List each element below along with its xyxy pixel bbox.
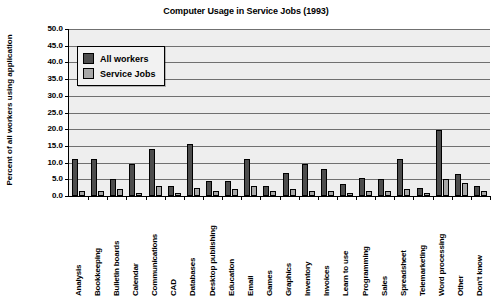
bar-all-workers: [455, 174, 461, 196]
bar-all-workers: [187, 144, 193, 196]
bar-group: [471, 29, 490, 196]
bar-group: [241, 29, 260, 196]
bar-all-workers: [359, 178, 365, 196]
y-tick-label: 35.0: [27, 74, 63, 83]
x-axis-label: Spreadsheet: [393, 200, 412, 298]
x-axis-label-text: Inventory: [303, 262, 312, 296]
bar-group: [260, 29, 279, 196]
bar-group: [280, 29, 299, 196]
bar-service-jobs: [117, 189, 123, 196]
bar-service-jobs: [290, 189, 296, 196]
y-axis-title: Percent of all workers using application: [2, 22, 16, 198]
x-axis-label: Telemarketing: [412, 200, 431, 298]
x-axis-label-text: Games: [265, 270, 274, 296]
legend-label: All workers: [100, 54, 149, 64]
y-tick-label: 20.0: [27, 124, 63, 133]
bar-all-workers: [129, 164, 135, 196]
bar-all-workers: [321, 169, 327, 196]
x-axis-label-text: Telemarketing: [418, 245, 427, 296]
x-axis-label-text: Spreadsheet: [399, 250, 408, 296]
bar-service-jobs: [366, 191, 372, 196]
bar-group: [452, 29, 471, 196]
bar-group: [222, 29, 241, 196]
y-tick-label: 15.0: [27, 141, 63, 150]
bar-service-jobs: [424, 193, 430, 196]
x-axis-label: Communications: [145, 200, 164, 298]
bar-all-workers: [206, 181, 212, 196]
x-axis-label: CAD: [164, 200, 183, 298]
x-axis-label: Sales: [374, 200, 393, 298]
x-axis-label-text: Invoices: [322, 266, 331, 296]
bar-service-jobs: [481, 191, 487, 196]
bar-group: [337, 29, 356, 196]
bar-service-jobs: [232, 189, 238, 196]
bar-service-jobs: [136, 193, 142, 196]
bar-all-workers: [225, 181, 231, 196]
bar-service-jobs: [270, 191, 276, 196]
bar-service-jobs: [443, 179, 449, 196]
x-axis-label: Databases: [183, 200, 202, 298]
x-axis-label-text: Bookkeeping: [93, 248, 102, 296]
chart-title: Computer Usage in Service Jobs (1993): [0, 6, 492, 16]
x-axis-label: Invoices: [317, 200, 336, 298]
x-axis-label: Word processing: [432, 200, 451, 298]
bar-group: [375, 29, 394, 196]
y-tick-mark: [65, 196, 69, 197]
x-axis-label: Learn to use: [336, 200, 355, 298]
bar-service-jobs: [328, 191, 334, 196]
x-axis-label-text: Learn to use: [341, 251, 350, 296]
y-tick-label: 0.0: [27, 191, 63, 200]
x-axis-label: Inventory: [298, 200, 317, 298]
bar-all-workers: [263, 186, 269, 196]
bar-chart: Computer Usage in Service Jobs (1993) Pe…: [0, 0, 492, 301]
bar-all-workers: [417, 188, 423, 196]
bar-service-jobs: [156, 186, 162, 196]
x-axis-label: Email: [240, 200, 259, 298]
bar-group: [184, 29, 203, 196]
bar-group: [433, 29, 452, 196]
bar-group: [394, 29, 413, 196]
x-axis-label: Bulletin boards: [106, 200, 125, 298]
bar-service-jobs: [385, 191, 391, 196]
y-tick-label: 10.0: [27, 158, 63, 167]
bar-group: [165, 29, 184, 196]
x-axis-label-text: Desktop publishing: [208, 225, 217, 296]
bar-service-jobs: [194, 188, 200, 196]
bar-all-workers: [91, 159, 97, 196]
x-axis-label: Other: [451, 200, 470, 298]
x-axis-label: Don't know: [470, 200, 489, 298]
x-axis-label-text: Databases: [188, 258, 197, 296]
bar-all-workers: [378, 179, 384, 196]
x-axis-label-text: Don't know: [475, 255, 484, 296]
x-axis-label: Analysis: [68, 200, 87, 298]
legend-item-all-workers: All workers: [83, 51, 156, 66]
x-axis-label: Education: [221, 200, 240, 298]
bar-service-jobs: [98, 191, 104, 196]
y-tick-label: 30.0: [27, 91, 63, 100]
bar-group: [203, 29, 222, 196]
y-tick-label: 45.0: [27, 41, 63, 50]
bar-group: [318, 29, 337, 196]
chart-legend: All workers Service Jobs: [77, 46, 165, 86]
bar-service-jobs: [213, 191, 219, 196]
x-axis-label-text: Word processing: [437, 234, 446, 296]
x-axis-label-text: Sales: [380, 276, 389, 296]
bar-service-jobs: [404, 189, 410, 196]
x-axis-label-text: Analysis: [74, 265, 83, 296]
x-tick-mark: [490, 196, 491, 200]
x-axis-label-text: Programming: [361, 246, 370, 296]
x-axis-label: Calendar: [125, 200, 144, 298]
legend-swatch-icon: [83, 68, 94, 79]
bar-all-workers: [474, 186, 480, 196]
bar-service-jobs: [309, 191, 315, 196]
y-tick-label: 25.0: [27, 108, 63, 117]
bar-service-jobs: [347, 193, 353, 196]
x-axis-label: Programming: [355, 200, 374, 298]
bar-group: [356, 29, 375, 196]
bar-group: [413, 29, 432, 196]
bar-all-workers: [397, 159, 403, 196]
bar-all-workers: [244, 159, 250, 196]
bar-all-workers: [168, 186, 174, 196]
legend-label: Service Jobs: [100, 69, 156, 79]
x-axis-labels: AnalysisBookkeepingBulletin boardsCalend…: [68, 200, 489, 300]
